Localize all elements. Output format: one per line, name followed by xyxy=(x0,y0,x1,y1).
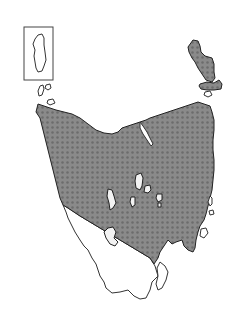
clarke-island xyxy=(204,91,212,97)
island-nw-3 xyxy=(47,99,55,105)
lake-4 xyxy=(158,203,161,207)
tasmania-shaded-region xyxy=(36,102,214,264)
island-nw-2 xyxy=(45,84,51,90)
island-nw-1 xyxy=(38,85,44,96)
maria-island xyxy=(200,228,208,238)
lake-3 xyxy=(156,194,162,202)
flinders-island xyxy=(188,40,215,82)
schouten-island xyxy=(209,210,214,215)
distribution-map xyxy=(0,0,240,329)
inset-map xyxy=(24,27,53,80)
bruny-island xyxy=(156,262,168,290)
great-lake xyxy=(135,173,143,190)
